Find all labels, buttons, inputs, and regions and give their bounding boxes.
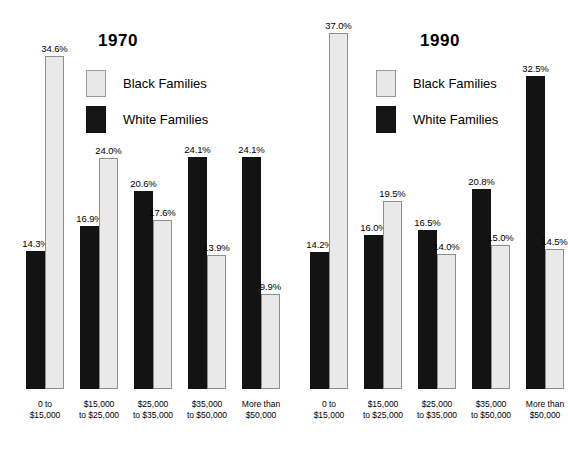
bar-value-label: 37.0% xyxy=(322,20,355,31)
bar-value-label: 20.8% xyxy=(465,176,498,187)
plot-area-1970: 14.3%34.6%0 to$15,00016.9%24.0%$15,000to… xyxy=(0,0,284,449)
bar-black-families-0 xyxy=(329,33,348,389)
bar-white-families-1 xyxy=(80,226,99,389)
bar-value-label: 14.5% xyxy=(538,236,568,247)
bar-value-label: 16.5% xyxy=(411,217,444,228)
bar-white-families-3 xyxy=(188,157,207,389)
x-axis-tick-line: $50,000 xyxy=(510,410,568,421)
bar-black-families-1 xyxy=(383,201,402,389)
bar-value-label: 32.5% xyxy=(519,63,552,74)
bar-white-families-0 xyxy=(26,251,45,389)
bar-black-families-4 xyxy=(545,249,564,389)
bar-value-label: 34.6% xyxy=(38,43,71,54)
bar-black-families-0 xyxy=(45,56,64,389)
bar-white-families-2 xyxy=(418,230,437,389)
bar-white-families-3 xyxy=(472,189,491,389)
plot-area-1990: 14.2%37.0%0 to$15,00016.0%19.5%$15,000to… xyxy=(284,0,568,449)
chart-panel-1990: 1990 Black Families White Families 14.2%… xyxy=(284,0,568,449)
bar-value-label: 20.6% xyxy=(127,178,160,189)
bar-black-families-2 xyxy=(437,254,456,389)
bar-black-families-4 xyxy=(261,294,280,389)
bar-value-label: 15.0% xyxy=(484,232,517,243)
chart-panel-1970: 1970 Black Families White Families 14.3%… xyxy=(0,0,284,449)
bar-value-label: 13.9% xyxy=(200,242,233,253)
bar-value-label: 24.1% xyxy=(235,144,268,155)
bar-black-families-2 xyxy=(153,220,172,389)
bar-white-families-4 xyxy=(242,157,261,389)
bar-value-label: 24.1% xyxy=(181,144,214,155)
bar-white-families-1 xyxy=(364,235,383,389)
bar-value-label: 17.6% xyxy=(146,207,179,218)
bar-value-label: 14.0% xyxy=(430,241,463,252)
bar-white-families-4 xyxy=(526,76,545,389)
x-axis-tick-label: More than$50,000 xyxy=(510,399,568,421)
bar-black-families-3 xyxy=(491,245,510,389)
bar-white-families-0 xyxy=(310,252,329,389)
bar-black-families-1 xyxy=(99,158,118,389)
bar-value-label: 19.5% xyxy=(376,188,409,199)
grouped-bar-chart-figure: 1970 Black Families White Families 14.3%… xyxy=(0,0,568,449)
bar-black-families-3 xyxy=(207,255,226,389)
bar-white-families-2 xyxy=(134,191,153,389)
x-axis-tick-line: More than xyxy=(510,399,568,410)
bar-value-label: 24.0% xyxy=(92,145,125,156)
bar-value-label: 9.9% xyxy=(254,281,287,292)
